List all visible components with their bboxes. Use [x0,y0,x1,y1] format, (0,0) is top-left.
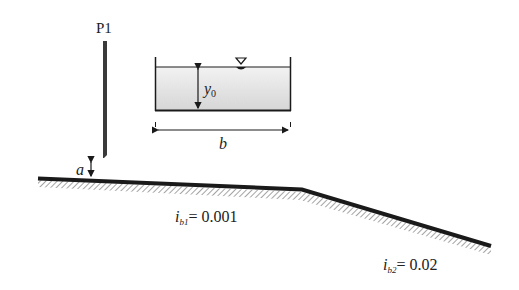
slope-label-1: ib1= 0.001 [175,208,237,227]
water-surface-icon [236,58,246,70]
width-label: b [219,135,227,152]
gate-opening-dimension: a [76,161,91,178]
slope-label-2: ib2= 0.02 [383,256,437,275]
channel-diagram: P1 a y0 b ib1= 0.001 ib2= 0.02 [0,0,519,290]
gate-label: P1 [96,20,112,36]
cross-section: y0 b [155,57,291,152]
sluice-gate: P1 [96,20,112,158]
channel-bed [38,179,491,256]
opening-label: a [76,161,84,178]
